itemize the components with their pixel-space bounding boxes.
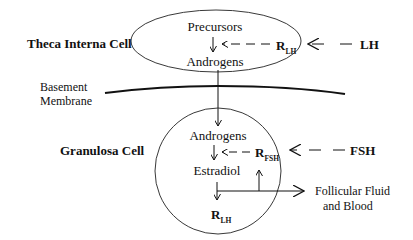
granulosa-rfsh-receptor: RFSH <box>255 145 279 163</box>
granulosa-rlh-receptor: RLH <box>211 207 231 225</box>
membrane-label-line2: Membrane <box>40 94 92 108</box>
follicular-fluid-label-line1: Follicular Fluid <box>315 184 390 198</box>
membrane-label-line1: Basement <box>40 80 88 94</box>
theca-rlh-receptor: RLH <box>276 38 296 56</box>
follicular-fluid-label-line2: and Blood <box>323 199 373 213</box>
ovarian-steroidogenesis-diagram: Theca Interna Cell Precursors Androgens … <box>0 0 413 240</box>
basement-membrane: Basement Membrane <box>40 80 345 108</box>
theca-cell-label: Theca Interna Cell <box>27 36 132 51</box>
granulosa-androgens-label: Androgens <box>189 128 246 143</box>
estradiol-label: Estradiol <box>194 163 241 178</box>
granulosa-cell-label: Granulosa Cell <box>60 143 145 158</box>
precursors-label: Precursors <box>188 19 243 34</box>
theca-androgens-label: Androgens <box>186 54 243 69</box>
granulosa-cell: Granulosa Cell Androgens Estradiol RFSH … <box>60 108 390 234</box>
theca-interna-cell: Theca Interna Cell Precursors Androgens … <box>27 10 379 72</box>
basement-membrane-line <box>105 86 345 94</box>
fsh-hormone-label: FSH <box>350 143 375 158</box>
lh-hormone-label: LH <box>360 37 379 52</box>
